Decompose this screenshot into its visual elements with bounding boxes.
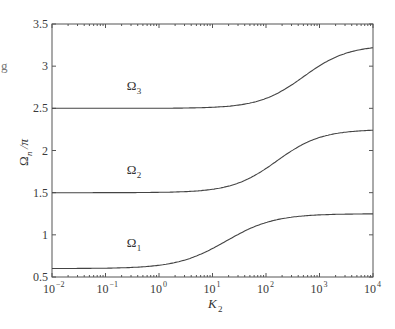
svg-text:−1: −1 — [110, 280, 119, 289]
y-axis-label-sub: n — [24, 151, 34, 156]
svg-text:0: 0 — [163, 280, 167, 289]
svg-text:10: 10 — [204, 282, 216, 296]
label-ω2: Ω2 — [127, 162, 142, 180]
curve-ω2 — [52, 130, 373, 193]
svg-text:2: 2 — [137, 170, 142, 180]
y-axis-label: Ω n /π — [16, 138, 34, 166]
svg-text:4: 4 — [377, 280, 381, 289]
y-axis-label-suffix: /π — [16, 138, 31, 150]
svg-text:1: 1 — [137, 243, 142, 253]
svg-text:Ω: Ω — [127, 162, 137, 177]
curve-ω1 — [52, 214, 373, 269]
x-axis-label-sub: 2 — [218, 304, 223, 314]
curves — [52, 48, 373, 269]
y-tick-label: 3 — [42, 59, 48, 73]
y-tick-label: 0.5 — [33, 270, 48, 284]
x-tick-label: 104 — [364, 280, 381, 296]
x-axis-label: K 2 — [207, 296, 223, 314]
y-axis-ticks: 0.511.522.533.5 — [33, 17, 373, 284]
svg-text:10: 10 — [311, 282, 323, 296]
y-tick-label: 3.5 — [33, 17, 48, 31]
chart: 10−210−1100101102103104 0.511.522.533.5 … — [0, 0, 395, 329]
x-tick-label: 102 — [257, 280, 274, 296]
curve-labels: Ω1Ω2Ω3 — [127, 78, 142, 254]
svg-text:10: 10 — [43, 282, 55, 296]
plot-frame — [52, 24, 373, 277]
label-ω1: Ω1 — [127, 235, 142, 253]
svg-text:−2: −2 — [56, 280, 65, 289]
y-tick-label: 2 — [42, 144, 48, 158]
y-axis-label-base: Ω — [16, 156, 31, 166]
svg-text:1: 1 — [217, 280, 221, 289]
x-axis-label-base: K — [207, 296, 218, 311]
svg-text:Ω: Ω — [127, 235, 137, 250]
curve-ω3 — [52, 48, 373, 109]
x-tick-label: 10−1 — [97, 280, 119, 296]
svg-text:10: 10 — [97, 282, 109, 296]
svg-text:Ω: Ω — [127, 78, 137, 93]
y-tick-label: 2.5 — [33, 101, 48, 115]
x-tick-label: 103 — [311, 280, 328, 296]
x-tick-label: 100 — [150, 280, 167, 296]
svg-text:10: 10 — [364, 282, 376, 296]
svg-text:2: 2 — [270, 280, 274, 289]
svg-text:3: 3 — [324, 280, 328, 289]
svg-text:3: 3 — [137, 86, 142, 96]
x-axis-ticks: 10−210−1100101102103104 — [43, 24, 381, 296]
y-tick-label: 1.5 — [33, 186, 48, 200]
svg-text:10: 10 — [150, 282, 162, 296]
x-tick-label: 101 — [204, 280, 221, 296]
svg-text:10: 10 — [257, 282, 269, 296]
label-ω3: Ω3 — [127, 78, 142, 96]
y-tick-label: 1 — [42, 228, 48, 242]
